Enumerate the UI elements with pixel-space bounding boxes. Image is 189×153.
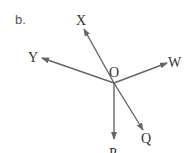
ray-ow <box>114 63 167 83</box>
label-w: W <box>168 55 182 70</box>
angle-rays-diagram: b. O X Y W Q P <box>0 0 189 153</box>
ray-oq <box>114 83 143 130</box>
label-y: Y <box>28 50 38 65</box>
label-q: Q <box>141 131 151 146</box>
ray-oy <box>42 58 114 83</box>
label-o: O <box>109 65 119 80</box>
label-p: P <box>109 146 117 153</box>
part-label: b. <box>15 12 26 27</box>
label-x: X <box>76 13 86 28</box>
